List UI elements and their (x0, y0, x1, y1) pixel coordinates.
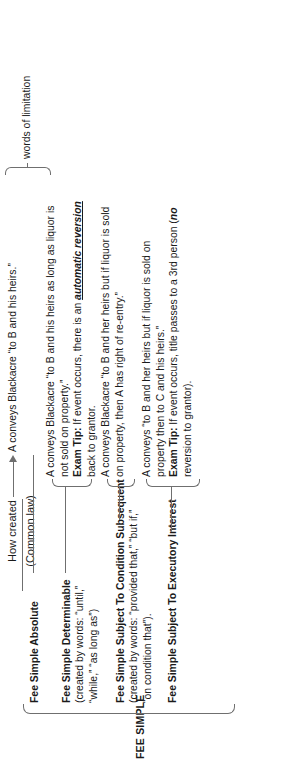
branch-label-fee-simple-absolute[interactable]: Fee Simple Absolute (28, 453, 41, 703)
branch-subtitle-line: (created by words: “provided that,” “but… (127, 453, 140, 703)
description-line: property then to C and his heirs.” (154, 207, 168, 477)
branch-group-bracket-3 (107, 479, 135, 487)
header-how-created: How created (6, 471, 18, 591)
description-line: A conveys Blackacre “to B and his heirs.… (6, 263, 20, 452)
branch-name: Fee Simple Subject To Condition Subseque… (114, 453, 127, 703)
branch-name: Fee Simple Subject To Executory Interest (166, 453, 179, 703)
exam-tip-line: Exam Tip: If event occurs, title passes … (167, 207, 181, 477)
exam-tip-emphasis: no (168, 207, 179, 220)
branch-description-4: A conveys “to B and her heirs but if liq… (140, 207, 194, 477)
words-of-limitation-bracket (5, 167, 51, 175)
words-of-limitation-tick (27, 163, 28, 168)
branch-label-fee-simple-subject-to-executory-interest[interactable]: Fee Simple Subject To Executory Interest (166, 453, 179, 703)
diagram-canvas: FEE SIMPLE How created (Common law) Fee … (0, 0, 285, 769)
branch-description-3: A conveys Blackacre “to B and her heirs … (99, 207, 126, 477)
branch-subtitle-line: “on condition that”). (141, 453, 154, 703)
description-line: A conveys Blackacre “to B and his heirs … (44, 201, 58, 477)
branch-group-bracket-4 (146, 479, 200, 487)
arrow-right-icon (9, 455, 17, 462)
branch-name: Fee Simple Determinable (60, 453, 73, 703)
branch-connector-4 (171, 487, 172, 531)
words-of-limitation-label: words of limitation (21, 76, 32, 159)
exam-tip-text: If event occurs, title passes to a 3rd p… (168, 220, 179, 427)
branch-subtitle-line: (created by words: “until,” (73, 453, 86, 703)
description-line: not sold on property.” (58, 201, 72, 477)
exam-tip-text: If event occurs, there is an (72, 300, 83, 428)
exam-tip-label: Exam Tip: (72, 428, 83, 477)
root-branch-bracket (23, 704, 235, 714)
rotated-diagram-frame: FEE SIMPLE How created (Common law) Fee … (0, 0, 285, 769)
description-line: A conveys Blackacre “to B and her heirs … (99, 207, 113, 477)
header-arrow-line (13, 461, 14, 497)
branch-group-bracket-2 (52, 479, 92, 487)
branch-connector-1 (33, 455, 34, 573)
branch-description-2: A conveys Blackacre “to B and his heirs … (44, 201, 98, 477)
branch-connector-3 (119, 487, 120, 520)
exam-tip-line: reversion to grantor). (181, 207, 195, 477)
exam-tip-line: Exam Tip: If event occurs, there is an a… (71, 201, 85, 477)
header-title: How created (6, 471, 18, 591)
description-line: A conveys “to B and her heirs but if liq… (140, 207, 154, 477)
exam-tip-emphasis: automatic reversion (72, 201, 83, 300)
header-underline (22, 499, 23, 591)
exam-tip-label: Exam Tip: (168, 428, 179, 477)
branch-name: Fee Simple Absolute (28, 453, 41, 703)
branch-connector-2 (65, 487, 66, 573)
branch-description-1: A conveys Blackacre “to B and his heirs.… (6, 263, 20, 452)
exam-tip-line: back to grantor. (85, 201, 99, 477)
description-line: on property, then A has right of re-entr… (113, 207, 127, 477)
branch-subtitle-line: “while,” “as long as”) (87, 453, 100, 703)
